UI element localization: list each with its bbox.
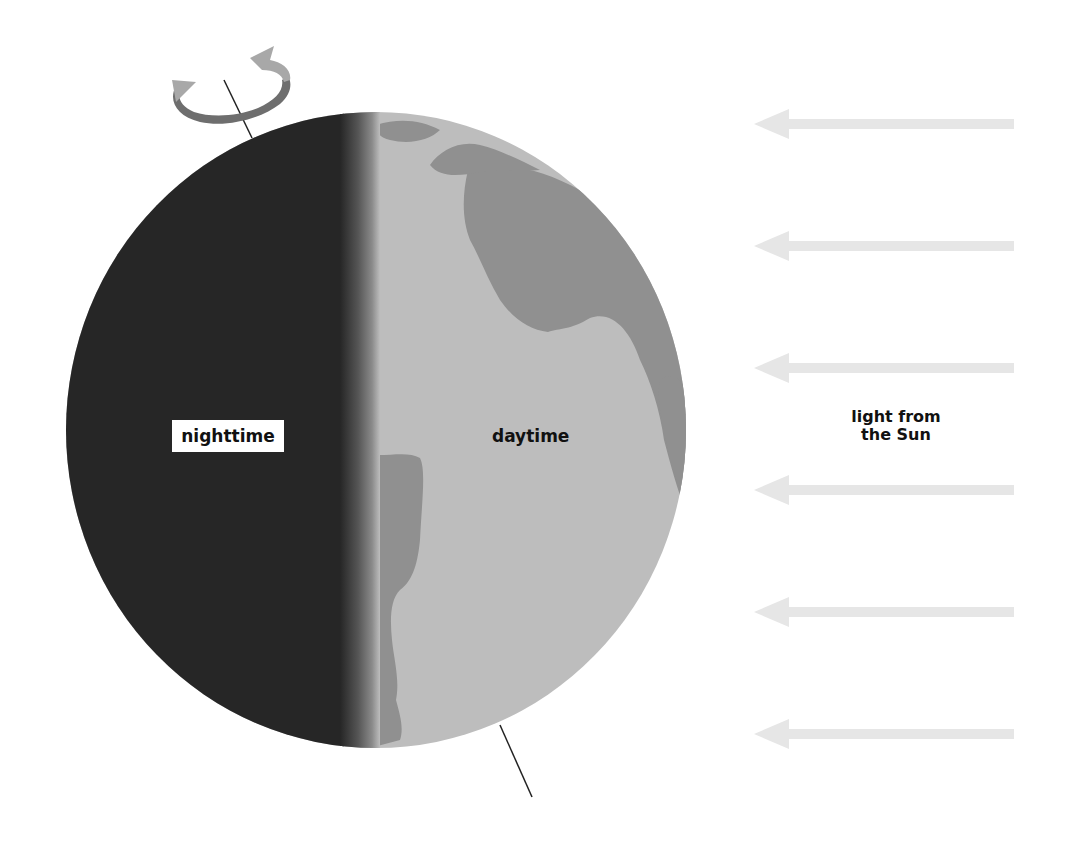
sunlight-label-line1: light from xyxy=(826,408,966,426)
sun-arrow-6 xyxy=(754,719,1014,749)
sun-arrow-4 xyxy=(754,475,1014,505)
sunlight-label: light from the Sun xyxy=(826,408,966,444)
earth-diagram: nighttime daytime light from the Sun xyxy=(0,0,1071,848)
rotation-arrow-icon xyxy=(172,46,290,124)
nighttime-label: nighttime xyxy=(172,420,284,452)
rotation-axis-top xyxy=(224,80,252,138)
sun-arrow-1 xyxy=(754,109,1014,139)
daytime-label: daytime xyxy=(492,422,569,450)
rotation-axis-bottom xyxy=(500,725,532,797)
sun-arrow-5 xyxy=(754,597,1014,627)
sun-arrow-3 xyxy=(754,353,1014,383)
terminator-band xyxy=(340,100,380,760)
sun-arrow-2 xyxy=(754,231,1014,261)
earth-globe xyxy=(60,100,700,760)
sunlight-label-line2: the Sun xyxy=(826,426,966,444)
